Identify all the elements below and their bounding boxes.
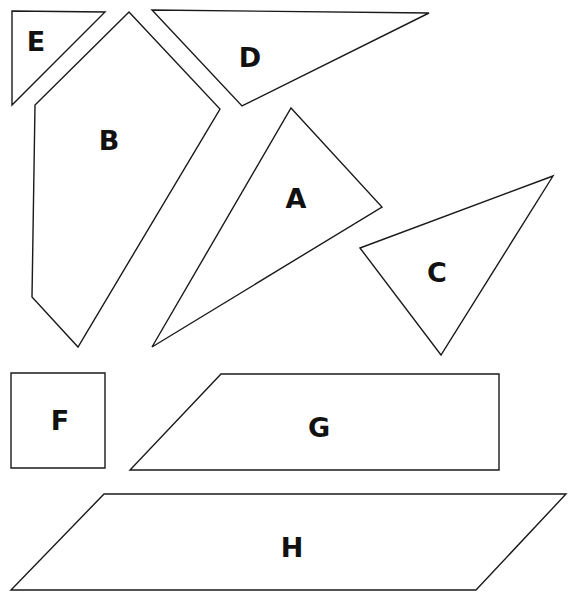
piece-h: H xyxy=(11,494,566,590)
piece-a-label: A xyxy=(286,183,307,214)
piece-b-label: B xyxy=(99,125,120,156)
piece-c-shape xyxy=(360,176,553,355)
piece-e-label: E xyxy=(27,26,45,57)
piece-c: C xyxy=(360,176,553,355)
piece-g-label: G xyxy=(308,412,330,443)
piece-g: G xyxy=(130,374,499,470)
piece-f-label: F xyxy=(51,405,69,436)
piece-c-label: C xyxy=(427,257,447,288)
piece-h-label: H xyxy=(281,532,304,563)
piece-f: F xyxy=(11,373,105,468)
piece-d-label: D xyxy=(239,42,261,73)
tangram-pieces-diagram: E B D A C F G H xyxy=(0,0,577,605)
